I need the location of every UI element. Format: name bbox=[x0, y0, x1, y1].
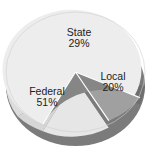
pie-chart-figure: State 29% Local 20% Federal 51% bbox=[0, 0, 151, 157]
pie-chart-canvas bbox=[0, 0, 151, 157]
